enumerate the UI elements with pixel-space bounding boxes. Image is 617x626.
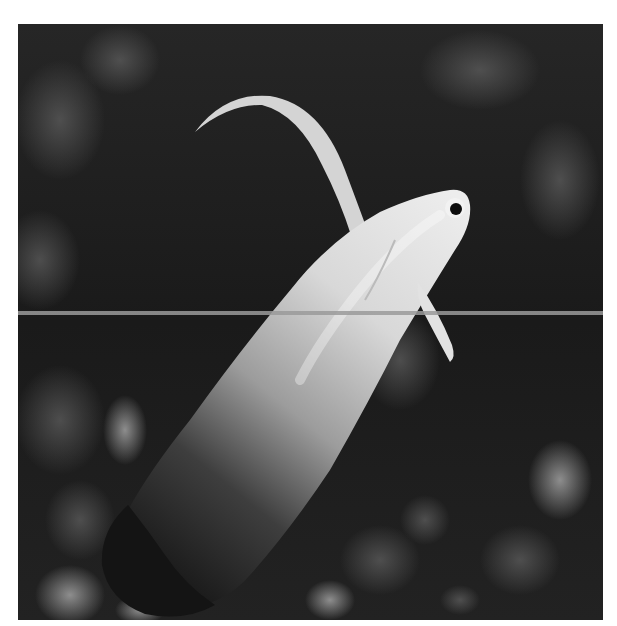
horizontal-divider-line bbox=[18, 311, 603, 315]
fish-photo bbox=[18, 24, 603, 620]
cropped-caption-remnant bbox=[0, 0, 617, 6]
fish-pupil bbox=[450, 203, 462, 215]
fish-photo-graphic bbox=[18, 24, 603, 620]
